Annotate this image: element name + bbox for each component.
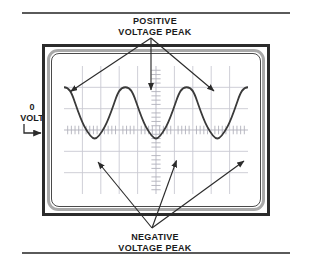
bottom-divider-rule — [22, 252, 290, 254]
scope-bezel-inner — [51, 53, 261, 207]
scope-screen — [64, 66, 248, 194]
waveform-plot — [64, 66, 248, 194]
oscilloscope — [42, 44, 270, 216]
negative-voltage-peak-label: NEGATIVE VOLTAGE PEAK — [95, 232, 215, 253]
positive-voltage-peak-label: POSITIVE VOLTAGE PEAK — [95, 16, 215, 37]
top-divider-rule — [22, 12, 290, 14]
zero-volt-pointer-arrow — [24, 124, 41, 133]
